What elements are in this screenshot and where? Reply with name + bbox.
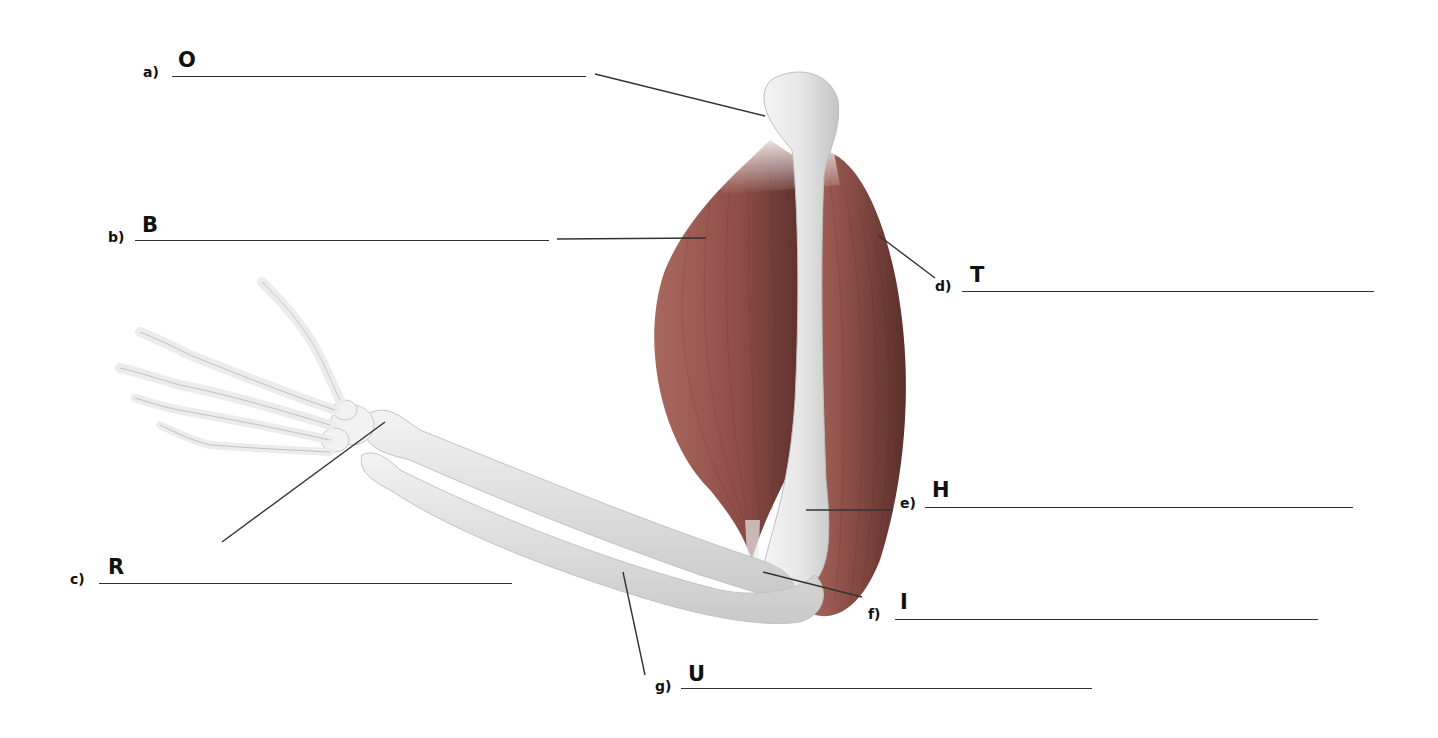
label-g-initial: U bbox=[688, 662, 705, 686]
answer-line-g[interactable] bbox=[681, 688, 1092, 689]
label-c-letter: c) bbox=[70, 571, 85, 587]
answer-line-a[interactable] bbox=[172, 76, 586, 77]
arm-anatomy-illustration bbox=[0, 0, 1438, 738]
leader-a bbox=[595, 74, 765, 116]
leader-c bbox=[222, 422, 385, 542]
label-a-initial: O bbox=[178, 48, 196, 72]
label-e-letter: e) bbox=[900, 495, 916, 511]
label-e-initial: H bbox=[932, 478, 950, 502]
label-d-initial: T bbox=[970, 263, 984, 287]
label-f-initial: I bbox=[900, 590, 908, 614]
label-f-letter: f) bbox=[868, 606, 881, 622]
label-g-letter: g) bbox=[655, 678, 671, 694]
answer-line-e[interactable] bbox=[925, 507, 1353, 508]
label-b-initial: B bbox=[142, 213, 158, 237]
label-d-letter: d) bbox=[935, 278, 951, 294]
answer-line-d[interactable] bbox=[962, 291, 1374, 292]
answer-line-f[interactable] bbox=[895, 619, 1318, 620]
answer-line-c[interactable] bbox=[99, 583, 512, 584]
label-b-letter: b) bbox=[108, 229, 124, 245]
hand-bones bbox=[120, 282, 374, 452]
leader-b bbox=[557, 238, 706, 239]
label-a-letter: a) bbox=[143, 64, 159, 80]
label-c-initial: R bbox=[108, 555, 124, 579]
answer-line-b[interactable] bbox=[135, 240, 549, 241]
